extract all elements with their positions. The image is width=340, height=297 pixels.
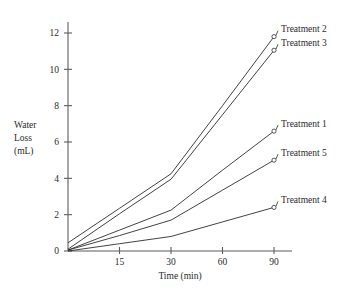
chart-canvas: 024681012 15306090 Treatment 2Treatment …	[0, 0, 340, 297]
series-endpoint-marker	[272, 129, 276, 133]
x-tick-label: 30	[166, 257, 176, 267]
series-line	[68, 37, 274, 243]
data-series-group	[68, 35, 276, 251]
series-label-leader	[276, 31, 278, 36]
series-label-treatment-1: Treatment 1	[281, 119, 327, 129]
x-tick-label: 15	[115, 257, 125, 267]
y-tick-label: 6	[54, 137, 59, 147]
axes-group	[68, 22, 292, 251]
water-loss-line-chart: 024681012 15306090 Treatment 2Treatment …	[0, 0, 340, 297]
y-tick-label: 8	[54, 101, 59, 111]
series-label-treatment-4: Treatment 4	[281, 195, 327, 205]
series-labels-group: Treatment 2Treatment 3Treatment 1Treatme…	[276, 24, 327, 206]
y-axis-ticks: 024681012	[50, 28, 73, 256]
y-tick-label: 0	[54, 246, 59, 256]
series-line	[68, 131, 274, 250]
y-axis-title-line-2: (mL)	[14, 146, 34, 157]
series-label-leader	[276, 154, 278, 159]
series-label-treatment-2: Treatment 2	[281, 24, 327, 34]
x-tick-label: 90	[269, 257, 279, 267]
y-tick-label: 4	[54, 174, 59, 184]
x-axis-ticks: 15306090	[115, 247, 279, 267]
y-tick-label: 12	[50, 28, 60, 38]
series-label-leader	[276, 125, 278, 130]
series-line	[68, 50, 274, 249]
y-axis-title-line-1: Loss	[14, 133, 32, 143]
y-axis-title: Water Loss (mL)	[14, 120, 37, 157]
series-label-treatment-5: Treatment 5	[281, 148, 327, 158]
series-label-leader	[276, 44, 278, 49]
series-label-treatment-3: Treatment 3	[281, 38, 327, 48]
y-tick-label: 2	[54, 210, 59, 220]
series-endpoint-marker	[272, 158, 276, 162]
series-endpoint-marker	[272, 35, 276, 39]
y-tick-label: 10	[50, 65, 60, 75]
series-line	[68, 207, 274, 251]
x-axis-title: Time (min)	[158, 271, 201, 282]
series-endpoint-marker	[272, 48, 276, 52]
series-endpoint-marker	[272, 205, 276, 209]
y-axis-title-line-0: Water	[14, 120, 37, 130]
series-label-leader	[276, 201, 278, 206]
x-tick-label: 60	[218, 257, 228, 267]
